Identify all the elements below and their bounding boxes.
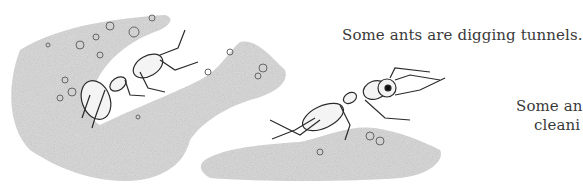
soil-mound-right [201,127,441,181]
caption-partial-line-1: Some an [516,97,582,115]
caption-partial-line-2: cleani [534,116,580,134]
caption-digging-tunnels: Some ants are digging tunnels. [342,26,583,44]
